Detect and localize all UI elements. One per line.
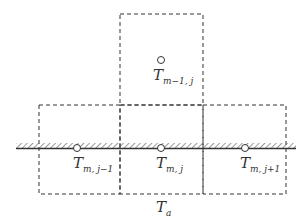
label-bottom-center: Tm, j	[156, 154, 183, 174]
node-top-icon	[158, 57, 165, 64]
node-bottom-center-icon	[158, 145, 165, 152]
boundary-surface	[16, 143, 296, 149]
finite-difference-grid-diagram: Tm−1, j Tm, j−1 Tm, j Tm, j+1 Ta	[0, 0, 307, 222]
label-top: Tm−1, j	[153, 66, 194, 86]
label-bottom-right: Tm, j+1	[240, 154, 280, 174]
label-bottom-left: Tm, j−1	[73, 154, 113, 174]
node-bottom-right-icon	[242, 145, 249, 152]
node-bottom-left-icon	[74, 145, 81, 152]
label-ambient: Ta	[156, 198, 171, 218]
